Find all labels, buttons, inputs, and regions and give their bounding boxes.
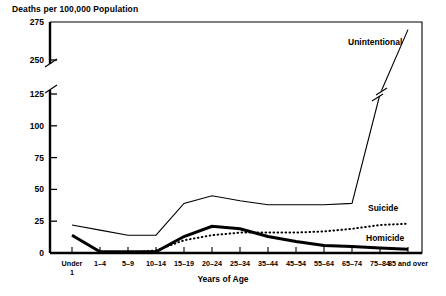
x-tick-label: 75–84 bbox=[370, 259, 390, 268]
x-tick-label: 5–9 bbox=[122, 259, 134, 268]
x-tick-label: 10–14 bbox=[146, 259, 166, 268]
y-tick-label: 125 bbox=[8, 89, 44, 99]
x-tick-label: 1–4 bbox=[94, 259, 106, 268]
y-tick-label: 100 bbox=[8, 121, 44, 131]
x-tick-label: 55–64 bbox=[314, 259, 334, 268]
x-axis-title: Years of Age bbox=[0, 274, 446, 284]
y-tick-label: 275 bbox=[8, 17, 44, 27]
x-tick-label: 20–24 bbox=[202, 259, 222, 268]
y-tick-label: 0 bbox=[8, 248, 44, 258]
y-tick-label: 25 bbox=[8, 216, 44, 226]
series-label-suicide: Suicide bbox=[368, 203, 398, 213]
x-tick-label: 25–34 bbox=[230, 259, 250, 268]
y-tick-label: 50 bbox=[8, 184, 44, 194]
series-label-homicide: Homicide bbox=[366, 233, 404, 243]
y-tick-label-group: 0255075100125250275 bbox=[8, 0, 44, 296]
chart-figure: Deaths per 100,000 Population 0255075100… bbox=[0, 0, 446, 296]
series-label-unintentional: Unintentional bbox=[348, 37, 402, 47]
x-tick-label: 85 and over bbox=[388, 259, 428, 268]
x-tick-label: 45–54 bbox=[286, 259, 306, 268]
y-tick-label: 250 bbox=[8, 55, 44, 65]
x-tick-label: 65–74 bbox=[342, 259, 362, 268]
y-tick-label: 75 bbox=[8, 153, 44, 163]
x-tick-label: 35–44 bbox=[258, 259, 278, 268]
x-tick-label: 15–19 bbox=[174, 259, 194, 268]
